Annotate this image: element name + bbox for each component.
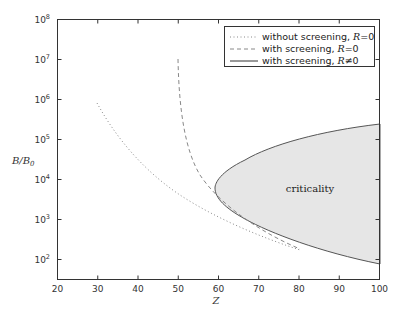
svg-text:104: 104: [34, 173, 50, 185]
legend-entry-2: with screening, R=0: [262, 43, 359, 54]
criticality-annotation: criticality: [286, 183, 335, 194]
svg-text:50: 50: [173, 284, 185, 294]
legend-entry-1: without screening, R=0: [262, 31, 374, 42]
svg-text:60: 60: [213, 284, 225, 294]
svg-text:103: 103: [34, 213, 50, 225]
x-axis-label: Z: [212, 295, 221, 306]
legend: without screening, R=0 with screening, R…: [225, 27, 375, 67]
svg-text:30: 30: [92, 284, 104, 294]
svg-text:106: 106: [34, 93, 50, 105]
chart: 2030405060708090100 10210310410510610710…: [0, 0, 404, 310]
svg-text:105: 105: [34, 133, 50, 145]
svg-text:108: 108: [34, 13, 50, 25]
legend-entry-3: with screening, R≠0: [262, 55, 359, 66]
svg-text:40: 40: [132, 284, 144, 294]
svg-text:107: 107: [34, 53, 50, 65]
y-axis-label: B/B0: [11, 155, 35, 168]
criticality-region: [215, 124, 380, 264]
svg-text:70: 70: [253, 284, 265, 294]
svg-text:102: 102: [34, 253, 50, 265]
svg-text:20: 20: [52, 284, 64, 294]
svg-text:80: 80: [293, 284, 305, 294]
svg-text:90: 90: [334, 284, 346, 294]
svg-text:100: 100: [371, 284, 388, 294]
